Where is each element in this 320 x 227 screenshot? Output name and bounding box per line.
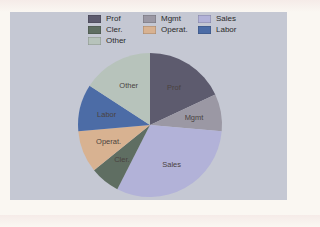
legend-label-mgmt: Mgmt [161,15,181,23]
legend-swatch-icon [198,15,211,23]
legend-item-mgmt: Mgmt [143,13,198,24]
slice-label-cler: Cler. [114,155,129,164]
slice-label-sales: Sales [162,160,181,169]
chart-panel: ProfMgmtSalesCler.Operat.LaborOther Prof… [10,12,287,200]
slice-label-prof: Prof [167,83,182,92]
legend-item-prof: Prof [88,13,143,24]
slice-label-operat: Operat. [96,137,121,146]
legend-swatch-icon [143,15,156,23]
slice-label-mgmt: Mgmt [185,113,205,122]
legend-swatch-icon [198,26,211,34]
slice-label-other: Other [119,81,138,90]
legend-item-cler: Cler. [88,24,143,35]
legend-label-labor: Labor [216,26,236,34]
legend-swatch-icon [143,26,156,34]
chart-legend: ProfMgmtSalesCler.Operat.LaborOther [88,13,260,46]
legend-label-operat: Operat. [161,26,188,34]
legend-item-other: Other [88,35,143,46]
legend-item-labor: Labor [198,24,260,35]
slice-label-labor: Labor [97,110,117,119]
legend-label-prof: Prof [106,15,121,23]
legend-label-sales: Sales [216,15,236,23]
legend-swatch-icon [88,26,101,34]
legend-label-other: Other [106,37,126,45]
legend-swatch-icon [88,15,101,23]
legend-label-cler: Cler. [106,26,122,34]
legend-swatch-icon [88,37,101,45]
legend-item-sales: Sales [198,13,260,24]
legend-item-operat: Operat. [143,24,198,35]
